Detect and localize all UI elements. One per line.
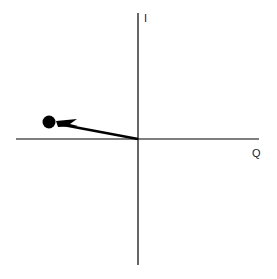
vector-flag [56, 119, 78, 127]
iq-diagram [0, 0, 277, 279]
i-axis-label: I [144, 12, 147, 24]
q-axis-label: Q [252, 147, 261, 159]
vector-endpoint-dot [43, 116, 56, 129]
